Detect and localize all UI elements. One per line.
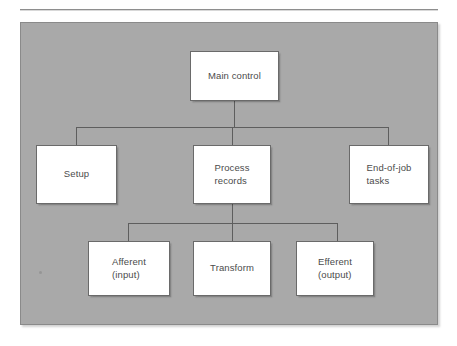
node-setup[interactable]: Setup: [36, 145, 117, 204]
node-main-control[interactable]: Main control: [190, 51, 279, 101]
node-afferent-input[interactable]: Afferent (input): [88, 241, 170, 296]
connector-process-records-drop: [232, 204, 233, 223]
connector-bus-to-transform: [232, 223, 233, 241]
node-end-of-job-tasks-label: End-of-job tasks: [361, 162, 418, 187]
connector-bus-to-end-of-job-tasks: [388, 127, 389, 145]
connector-bus-to-setup: [76, 127, 77, 145]
connector-bus-to-efferent: [337, 223, 338, 241]
diagram-panel: Main control Setup Process records End-o…: [20, 22, 438, 325]
node-end-of-job-tasks[interactable]: End-of-job tasks: [349, 145, 429, 204]
node-process-records-label: Process records: [208, 162, 255, 187]
node-efferent-output-label: Efferent (output): [312, 256, 358, 281]
node-transform-label: Transform: [204, 262, 260, 275]
scan-artifact-speck: [39, 271, 42, 274]
node-process-records[interactable]: Process records: [193, 145, 271, 204]
top-divider-rule: [20, 9, 438, 10]
connector-main-control-drop: [234, 101, 235, 127]
connector-bus-to-afferent: [128, 223, 129, 241]
node-efferent-output[interactable]: Efferent (output): [296, 241, 374, 296]
node-main-control-label: Main control: [202, 70, 267, 83]
figure-container: Main control Setup Process records End-o…: [0, 0, 457, 346]
node-afferent-input-label: Afferent (input): [106, 256, 152, 281]
node-setup-label: Setup: [58, 168, 95, 181]
node-transform[interactable]: Transform: [193, 241, 271, 296]
connector-bus-to-process-records: [232, 127, 233, 145]
